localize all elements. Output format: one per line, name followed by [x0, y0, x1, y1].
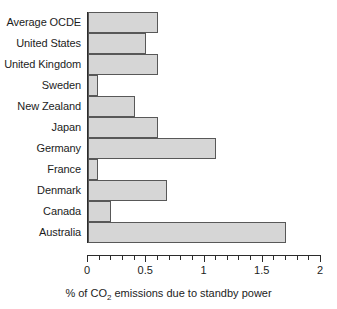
bar [88, 201, 111, 222]
x-axis-major-tick [204, 256, 205, 262]
bar [88, 138, 216, 159]
x-axis-major-tick [145, 256, 146, 262]
category-label: Average OCDE [0, 17, 81, 28]
bar [88, 75, 98, 96]
category-label: Canada [0, 206, 81, 217]
category-label: United States [0, 38, 81, 49]
x-axis-minor-tick [110, 256, 111, 260]
bar [88, 180, 167, 201]
x-axis-title-post: emissions due to standby power [111, 287, 271, 299]
plot-area [87, 12, 320, 243]
x-axis-tick-label: 0 [84, 264, 90, 276]
x-axis-tick-label: 1 [200, 264, 206, 276]
category-label: Australia [0, 227, 81, 238]
x-axis-minor-tick [285, 256, 286, 260]
x-axis-title: % of CO2 emissions due to standby power [0, 287, 337, 300]
category-label: Japan [0, 122, 81, 133]
x-axis-major-tick [320, 256, 321, 262]
x-axis-title-pre: % of CO [65, 287, 107, 299]
category-label: France [0, 164, 81, 175]
x-axis-major-tick [262, 256, 263, 262]
x-axis-minor-tick [169, 256, 170, 260]
x-axis-major-tick [87, 256, 88, 262]
x-axis-tick-label: 1.5 [254, 264, 269, 276]
x-axis-minor-tick [238, 256, 239, 260]
bar [88, 117, 158, 138]
standby-power-bar-chart: Average OCDE United States United Kingdo… [0, 0, 337, 309]
x-axis-minor-tick [215, 256, 216, 260]
x-axis-minor-tick [134, 256, 135, 260]
x-axis-minor-tick [273, 256, 274, 260]
bar [88, 33, 146, 54]
x-axis-minor-tick [180, 256, 181, 260]
category-label: United Kingdom [0, 59, 81, 70]
bar [88, 222, 286, 243]
x-axis-minor-tick [227, 256, 228, 260]
category-axis-labels: Average OCDE United States United Kingdo… [0, 12, 84, 243]
category-label: New Zealand [0, 101, 81, 112]
x-axis-minor-tick [250, 256, 251, 260]
category-label: Sweden [0, 80, 81, 91]
category-label: Germany [0, 143, 81, 154]
x-axis-minor-tick [297, 256, 298, 260]
x-axis-minor-tick [122, 256, 123, 260]
category-label: Denmark [0, 185, 81, 196]
bar [88, 96, 135, 117]
x-axis-minor-tick [308, 256, 309, 260]
x-axis-minor-tick [99, 256, 100, 260]
x-axis-tick-label: 0.5 [138, 264, 153, 276]
bar [88, 159, 98, 180]
x-axis-minor-tick [192, 256, 193, 260]
bar [88, 54, 158, 75]
bar [88, 12, 158, 33]
x-axis-tick-label: 2 [317, 264, 323, 276]
x-axis-minor-tick [157, 256, 158, 260]
